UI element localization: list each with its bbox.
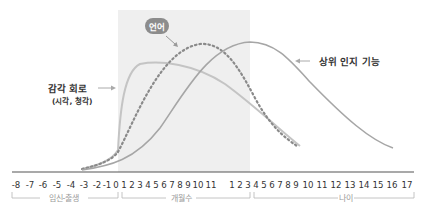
tick-year: 16 (387, 180, 398, 190)
tick-gestation: -1 (103, 180, 112, 190)
tick-year: 11 (317, 180, 328, 190)
tick-year: 13 (345, 180, 356, 190)
tick-gestation: -7 (26, 180, 35, 190)
brain-development-chart: -8-7-6-5-4-3-2-1012345678910111234567891… (0, 0, 424, 211)
tick-year: 15 (373, 180, 384, 190)
tick-year: 8 (285, 180, 290, 190)
tick-year: 7 (277, 180, 282, 190)
tick-month: 8 (177, 180, 182, 190)
tick-month: 7 (169, 180, 174, 190)
tick-year: 6 (269, 180, 274, 190)
tick-month: 5 (153, 180, 158, 190)
tick-month: 9 (185, 180, 190, 190)
tick-month: 11 (206, 180, 217, 190)
higher-arrow-icon (295, 59, 310, 64)
tick-year: 4 (253, 180, 258, 190)
tick-gestation: -5 (53, 180, 62, 190)
sensory-sublabel: (시각, 청각) (52, 96, 92, 106)
tick-year: 5 (261, 180, 266, 190)
group-label-months: 개월수 (171, 193, 192, 203)
language-pill: 언어 (145, 18, 169, 34)
tick-gestation: -4 (67, 180, 76, 190)
tick-year: 17 (402, 180, 413, 190)
tick-year: 14 (359, 180, 370, 190)
tick-year: 12 (331, 180, 342, 190)
higher-cognitive-label: 상위 인지 기능 (319, 56, 380, 67)
tick-year: 10 (303, 180, 314, 190)
tick-month: 1 (121, 180, 126, 190)
group-label-gestation: 임신-출생 (49, 193, 80, 203)
tick-month: 4 (145, 180, 150, 190)
tick-month: 10 (193, 180, 204, 190)
tick-year: 1 (229, 180, 234, 190)
tick-year: 9 (293, 180, 298, 190)
months-shaded-region (118, 10, 250, 172)
tick-gestation: -6 (39, 180, 48, 190)
tick-gestation: -8 (12, 180, 21, 190)
tick-gestation: -2 (93, 180, 102, 190)
sensory-label: 감각 회로 (48, 83, 87, 94)
tick-month: 2 (129, 180, 134, 190)
sensory-arrow-icon (98, 86, 116, 91)
tick-month: 6 (161, 180, 166, 190)
x-tick-labels: -8-7-6-5-4-3-2-1012345678910111234567891… (12, 180, 413, 190)
group-label-years: 나이 (339, 193, 353, 203)
language-label: 언어 (149, 22, 165, 32)
tick-month: 3 (137, 180, 142, 190)
tick-year: 3 (245, 180, 250, 190)
tick-year: 2 (237, 180, 242, 190)
tick-gestation: -3 (80, 180, 89, 190)
tick-gestation: 0 (113, 180, 118, 190)
